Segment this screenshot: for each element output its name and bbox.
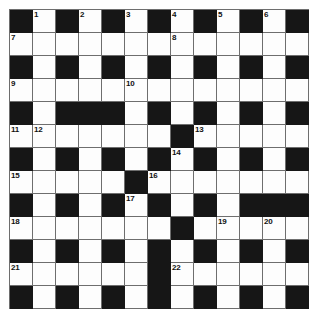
- crossword-grid[interactable]: 12345678910111213141516171819202122: [9, 9, 309, 309]
- crossword-open-cell[interactable]: 3: [125, 10, 148, 33]
- crossword-open-cell[interactable]: [240, 125, 263, 148]
- crossword-open-cell[interactable]: [171, 194, 194, 217]
- crossword-open-cell[interactable]: [217, 171, 240, 194]
- crossword-open-cell[interactable]: [125, 33, 148, 56]
- crossword-open-cell[interactable]: [240, 79, 263, 102]
- crossword-open-cell[interactable]: [263, 125, 286, 148]
- crossword-open-cell[interactable]: [217, 263, 240, 286]
- crossword-open-cell[interactable]: [171, 56, 194, 79]
- crossword-open-cell[interactable]: [148, 217, 171, 240]
- crossword-open-cell[interactable]: [263, 263, 286, 286]
- crossword-open-cell[interactable]: 5: [217, 10, 240, 33]
- crossword-open-cell[interactable]: [56, 125, 79, 148]
- crossword-open-cell[interactable]: 17: [125, 194, 148, 217]
- crossword-open-cell[interactable]: [33, 102, 56, 125]
- crossword-open-cell[interactable]: 1: [33, 10, 56, 33]
- crossword-open-cell[interactable]: 20: [263, 217, 286, 240]
- crossword-open-cell[interactable]: [125, 286, 148, 309]
- crossword-open-cell[interactable]: [286, 33, 309, 56]
- crossword-open-cell[interactable]: [171, 286, 194, 309]
- crossword-open-cell[interactable]: [79, 240, 102, 263]
- crossword-open-cell[interactable]: [217, 125, 240, 148]
- crossword-open-cell[interactable]: [33, 79, 56, 102]
- crossword-open-cell[interactable]: [79, 125, 102, 148]
- crossword-open-cell[interactable]: [217, 102, 240, 125]
- crossword-open-cell[interactable]: [263, 240, 286, 263]
- crossword-open-cell[interactable]: [263, 102, 286, 125]
- crossword-open-cell[interactable]: [79, 79, 102, 102]
- crossword-open-cell[interactable]: [102, 79, 125, 102]
- crossword-open-cell[interactable]: [240, 171, 263, 194]
- crossword-open-cell[interactable]: [263, 286, 286, 309]
- crossword-open-cell[interactable]: [194, 79, 217, 102]
- crossword-open-cell[interactable]: 13: [194, 125, 217, 148]
- crossword-open-cell[interactable]: [286, 125, 309, 148]
- crossword-open-cell[interactable]: [217, 79, 240, 102]
- crossword-open-cell[interactable]: [217, 56, 240, 79]
- crossword-open-cell[interactable]: [171, 79, 194, 102]
- crossword-open-cell[interactable]: [125, 217, 148, 240]
- crossword-open-cell[interactable]: [148, 79, 171, 102]
- crossword-open-cell[interactable]: 15: [10, 171, 33, 194]
- crossword-open-cell[interactable]: [194, 263, 217, 286]
- crossword-open-cell[interactable]: [240, 263, 263, 286]
- crossword-open-cell[interactable]: [217, 286, 240, 309]
- crossword-open-cell[interactable]: [33, 194, 56, 217]
- crossword-open-cell[interactable]: 4: [171, 10, 194, 33]
- crossword-open-cell[interactable]: [102, 33, 125, 56]
- crossword-open-cell[interactable]: [33, 263, 56, 286]
- crossword-open-cell[interactable]: [79, 286, 102, 309]
- crossword-open-cell[interactable]: [79, 263, 102, 286]
- crossword-open-cell[interactable]: [125, 148, 148, 171]
- crossword-open-cell[interactable]: 7: [10, 33, 33, 56]
- crossword-open-cell[interactable]: [79, 56, 102, 79]
- crossword-open-cell[interactable]: 10: [125, 79, 148, 102]
- crossword-open-cell[interactable]: [56, 171, 79, 194]
- crossword-open-cell[interactable]: [56, 217, 79, 240]
- crossword-open-cell[interactable]: 8: [171, 33, 194, 56]
- crossword-open-cell[interactable]: [125, 125, 148, 148]
- crossword-open-cell[interactable]: 22: [171, 263, 194, 286]
- crossword-open-cell[interactable]: 12: [33, 125, 56, 148]
- crossword-open-cell[interactable]: [217, 240, 240, 263]
- crossword-open-cell[interactable]: [286, 171, 309, 194]
- crossword-open-cell[interactable]: [263, 148, 286, 171]
- crossword-open-cell[interactable]: [33, 240, 56, 263]
- crossword-open-cell[interactable]: [240, 217, 263, 240]
- crossword-open-cell[interactable]: [125, 240, 148, 263]
- crossword-open-cell[interactable]: [125, 263, 148, 286]
- crossword-open-cell[interactable]: [171, 171, 194, 194]
- crossword-open-cell[interactable]: [33, 56, 56, 79]
- crossword-open-cell[interactable]: [102, 263, 125, 286]
- crossword-open-cell[interactable]: [286, 217, 309, 240]
- crossword-open-cell[interactable]: [263, 171, 286, 194]
- crossword-open-cell[interactable]: [56, 33, 79, 56]
- crossword-open-cell[interactable]: [56, 263, 79, 286]
- crossword-open-cell[interactable]: [217, 148, 240, 171]
- crossword-open-cell[interactable]: [286, 79, 309, 102]
- crossword-open-cell[interactable]: [79, 194, 102, 217]
- crossword-open-cell[interactable]: 11: [10, 125, 33, 148]
- crossword-open-cell[interactable]: 2: [79, 10, 102, 33]
- crossword-open-cell[interactable]: 16: [148, 171, 171, 194]
- crossword-open-cell[interactable]: 19: [217, 217, 240, 240]
- crossword-open-cell[interactable]: [125, 102, 148, 125]
- crossword-open-cell[interactable]: [286, 263, 309, 286]
- crossword-open-cell[interactable]: [217, 33, 240, 56]
- crossword-open-cell[interactable]: 14: [171, 148, 194, 171]
- crossword-open-cell[interactable]: 9: [10, 79, 33, 102]
- crossword-open-cell[interactable]: [240, 33, 263, 56]
- crossword-open-cell[interactable]: [171, 240, 194, 263]
- crossword-open-cell[interactable]: 18: [10, 217, 33, 240]
- crossword-open-cell[interactable]: [33, 286, 56, 309]
- crossword-open-cell[interactable]: [33, 217, 56, 240]
- crossword-open-cell[interactable]: [79, 148, 102, 171]
- crossword-open-cell[interactable]: [148, 125, 171, 148]
- crossword-open-cell[interactable]: [217, 194, 240, 217]
- crossword-open-cell[interactable]: [79, 33, 102, 56]
- crossword-open-cell[interactable]: [33, 33, 56, 56]
- crossword-open-cell[interactable]: [33, 171, 56, 194]
- crossword-open-cell[interactable]: [102, 125, 125, 148]
- crossword-open-cell[interactable]: [263, 79, 286, 102]
- crossword-open-cell[interactable]: [79, 217, 102, 240]
